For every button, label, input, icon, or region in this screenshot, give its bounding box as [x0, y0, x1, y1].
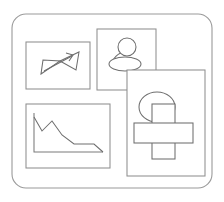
illustration-canvas: Media gallery panels illustration Line d… — [0, 0, 224, 202]
avatar-body — [109, 57, 141, 71]
avatar-head — [118, 38, 136, 56]
illustration-svg — [0, 0, 224, 202]
panel-linechart[interactable] — [26, 104, 110, 168]
panel-shapes[interactable] — [127, 70, 205, 176]
panel-bowtie[interactable] — [26, 42, 90, 89]
panel-bowtie-frame — [26, 42, 90, 89]
shape-horizontal-bar — [134, 123, 193, 143]
panel-linechart-frame — [26, 104, 110, 168]
